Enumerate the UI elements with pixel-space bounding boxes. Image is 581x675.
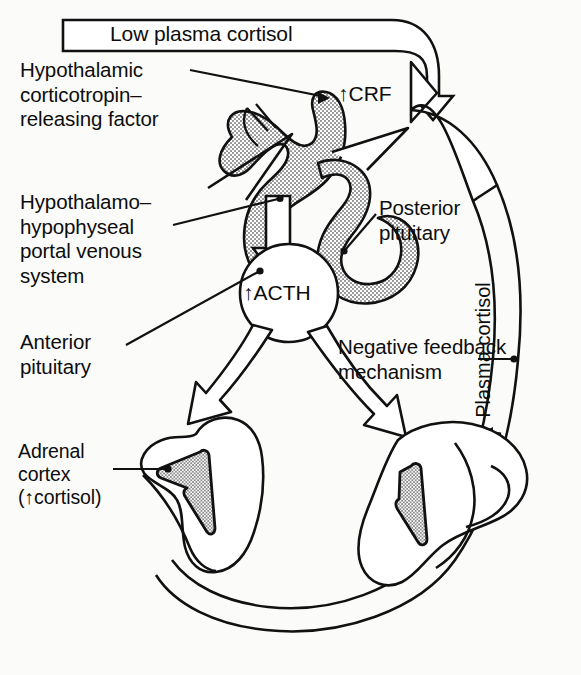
adrenal-gland-left <box>141 418 263 573</box>
label-acth: ↑ACTH <box>243 281 311 305</box>
label-anterior-pituitary: Anterior pituitary <box>20 330 91 379</box>
label-hypothalamic-crf: Hypothalamic corticotropin– releasing fa… <box>20 58 159 132</box>
leader-line-hypothalamic <box>190 70 330 104</box>
banner-label: Low plasma cortisol <box>110 22 293 47</box>
adrenal-gland-right <box>358 422 527 585</box>
feedback-return-arrow <box>411 62 497 201</box>
acth-to-left-adrenal-arrow <box>188 325 272 424</box>
label-crf: ↑CRF <box>338 82 392 106</box>
label-portal-venous-system: Hypothalamo– hypophyseal portal venous s… <box>20 190 151 288</box>
label-adrenal-cortex: Adrenal cortex (↑cortisol) <box>18 440 101 509</box>
label-posterior-pituitary: Posterior pituitary <box>379 196 460 245</box>
label-plasma-cortisol: Plasma cortisol <box>472 250 495 450</box>
figure-root: Low plasma cortisol Hypothalamic cortico… <box>0 0 581 675</box>
